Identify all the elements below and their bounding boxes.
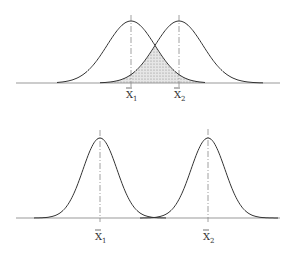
bottom-curve-2 <box>140 138 278 218</box>
top-mean1-subscript: 1 <box>133 95 137 103</box>
bottom-mean2-subscript: 2 <box>210 237 214 245</box>
diagram-canvas: X 1 X 2 X 1 X 2 <box>0 0 300 253</box>
bottom-mean1-label: X 1 <box>95 230 106 245</box>
top-mean2-subscript: 2 <box>181 95 185 103</box>
top-panel: X 1 X 2 <box>16 15 280 103</box>
top-mean2-label: X 2 <box>174 88 185 103</box>
bottom-panel: X 1 X 2 <box>16 129 280 245</box>
top-mean1-label: X 1 <box>126 88 137 103</box>
overlap-shaded-region <box>100 45 205 83</box>
bottom-mean2-label: X 2 <box>203 230 214 245</box>
top-curve-2 <box>100 21 263 83</box>
bottom-mean1-subscript: 1 <box>102 237 106 245</box>
